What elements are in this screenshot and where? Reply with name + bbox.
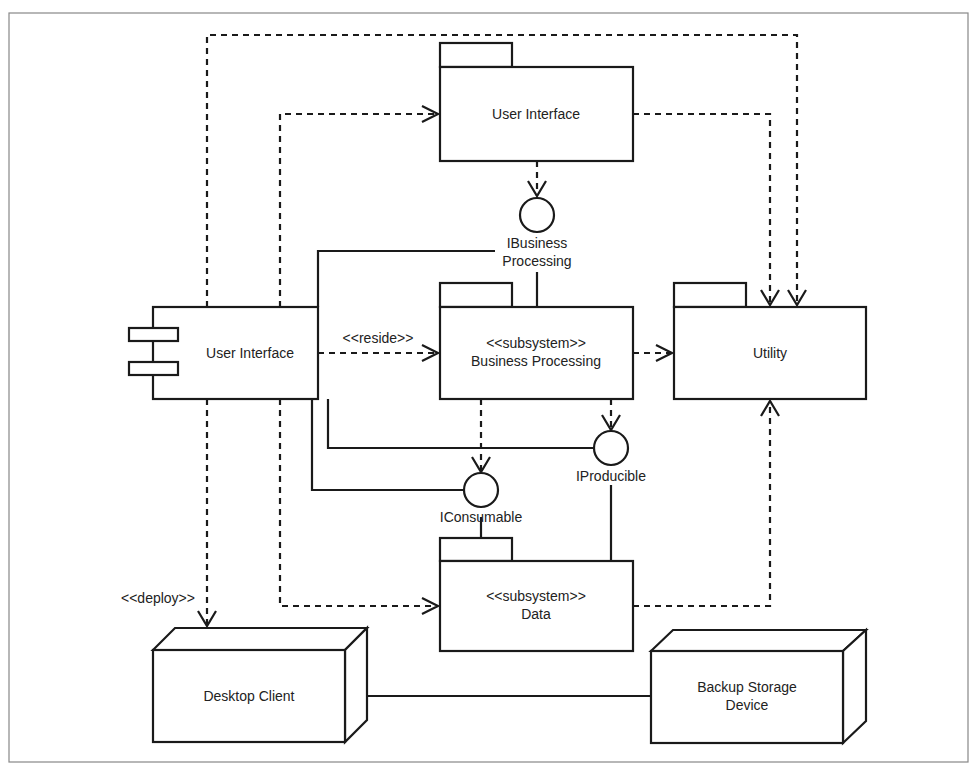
interface-iconsumable[interactable]: IConsumable [440,473,523,525]
component-port-icon [129,362,178,375]
node-side-face [843,630,866,743]
interface-label-line1: IBusiness [507,235,568,251]
package-label: Utility [753,345,787,361]
node-label-line2: Device [726,697,769,713]
interface-lollipop-icon [464,473,498,507]
package-tab [440,283,512,307]
package-stereotype: <<subsystem>> [486,588,586,604]
interface-iproducible[interactable]: IProducible [576,431,646,484]
package-label: User Interface [492,106,580,122]
interface-lollipop-icon [520,198,554,232]
package-label: Data [521,606,551,622]
component-user-interface[interactable]: User Interface [129,307,318,399]
node-label-line1: Backup Storage [697,679,797,695]
package-tab [674,283,746,307]
component-port-icon [129,328,178,341]
interface-label-line2: Processing [502,253,571,269]
dependency-component-to-data [280,399,438,606]
component-requires-iproducible [328,399,594,448]
node-backup-storage-device[interactable]: Backup Storage Device [651,630,866,743]
package-user-interface[interactable]: User Interface [440,43,633,161]
component-requires-iconsumable [312,399,464,490]
package-tab [440,43,512,67]
interface-ibusiness-processing[interactable]: IBusiness Processing [502,198,571,269]
deploy-label: <<deploy>> [121,590,195,606]
reside-label: <<reside>> [343,330,414,346]
package-tab [440,538,512,561]
node-label: Desktop Client [203,688,294,704]
interface-label: IConsumable [440,509,523,525]
component-label: User Interface [206,345,294,361]
package-label: Business Processing [471,353,601,369]
node-desktop-client[interactable]: Desktop Client [153,628,367,742]
dependency-data-to-utility [633,401,770,606]
uml-diagram-canvas: User Interface IBusiness Processing User… [0,0,978,773]
interface-label: IProducible [576,468,646,484]
interface-lollipop-icon [594,431,628,465]
dependency-component-to-ui-package [280,114,438,307]
node-top-face [153,628,367,650]
node-top-face [651,630,866,651]
package-stereotype: <<subsystem>> [486,335,586,351]
package-data[interactable]: <<subsystem>> Data [440,538,633,651]
dependency-ui-package-to-utility [633,114,770,305]
